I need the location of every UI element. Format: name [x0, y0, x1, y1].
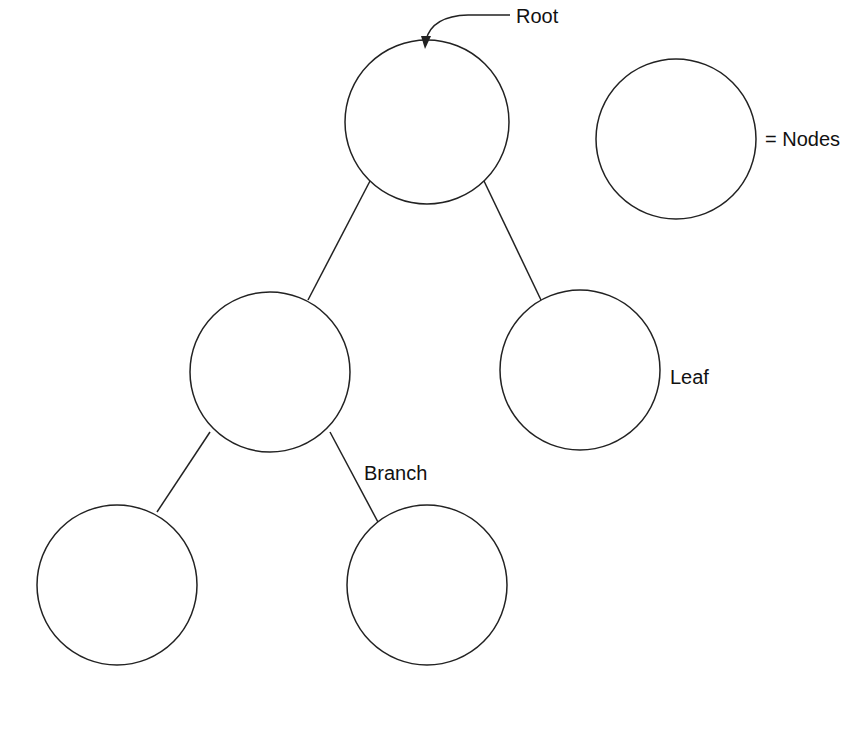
left-left-grandchild-node [37, 505, 197, 665]
leaf-label: Leaf [670, 366, 709, 388]
nodes [37, 40, 756, 665]
legend-node [596, 59, 756, 219]
left-child-node [190, 292, 350, 452]
root-arrow [426, 15, 510, 40]
edge-root-right [484, 181, 541, 300]
branch-label: Branch [364, 462, 427, 484]
root-label: Root [516, 5, 559, 27]
edge-root-left [308, 181, 370, 300]
leaf-node [500, 290, 660, 450]
left-right-grandchild-node [347, 505, 507, 665]
tree-diagram: Root = Nodes Leaf Branch [0, 0, 855, 745]
root-node [345, 40, 509, 204]
nodes-legend-label: = Nodes [765, 128, 840, 150]
edge-left-leftleft [157, 432, 210, 512]
